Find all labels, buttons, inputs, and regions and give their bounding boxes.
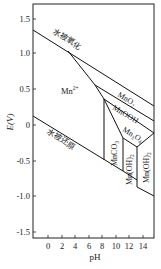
- y-tick-label: -1.0: [17, 191, 30, 201]
- x-tick-label: 10: [112, 241, 121, 251]
- y-tick-label: -1.5: [17, 227, 30, 237]
- y-tick-label: 1.0: [19, 48, 30, 58]
- y-tick-label: 1.5: [19, 14, 30, 24]
- x-tick-label: 4: [73, 241, 78, 251]
- y-axis-label: E(V): [5, 114, 15, 132]
- pourbaix-diagram: 1.5 1.0 0.5 0 -0.5 -1.0 -1.5 E(V) 0 2 4 …: [0, 0, 161, 269]
- region-mn3o4: Mn3O4: [120, 125, 145, 145]
- x-tick-label: 0: [46, 241, 50, 251]
- y-tick-label: 0: [26, 120, 30, 130]
- region-mn2plus: Mn2+: [61, 85, 79, 96]
- y-tick-label: 0.5: [19, 84, 30, 94]
- boundary-lines: [33, 30, 154, 196]
- x-tick-label: 14: [139, 241, 148, 251]
- water-oxidation-label: 水被氧化: [51, 26, 83, 51]
- x-tick-label: 12: [125, 241, 134, 251]
- water-reduction-label: 水被还原: [45, 126, 77, 151]
- region-mnoh2-right: Mn(OH)2: [142, 152, 152, 183]
- region-mnco3: MnCO3: [110, 141, 120, 166]
- x-tick-label: 2: [60, 241, 64, 251]
- region-mnoh2-left: Mn(OH)2: [125, 154, 135, 185]
- x-tick-label: 8: [100, 241, 104, 251]
- x-axis-label: pH: [90, 252, 102, 262]
- x-tick-label: 6: [87, 241, 91, 251]
- y-tick-label: -0.5: [17, 156, 30, 166]
